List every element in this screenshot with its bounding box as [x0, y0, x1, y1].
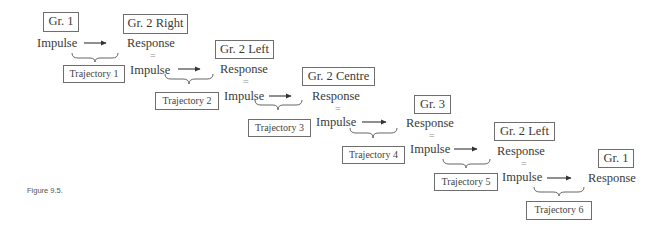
- arrow-icons: [84, 43, 571, 178]
- connectors-overlay: [0, 0, 668, 229]
- brace-icons: [72, 53, 584, 196]
- figure-caption: Figure 9.5.: [27, 186, 63, 195]
